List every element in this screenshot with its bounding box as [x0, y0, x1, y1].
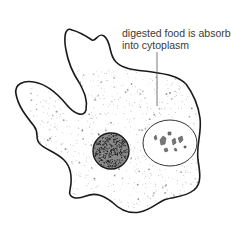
nucleus-dot: [125, 145, 126, 146]
stipple-dot: [66, 106, 67, 107]
stipple-dot: [115, 174, 116, 175]
stipple-dot: [142, 157, 143, 158]
stipple-dot: [91, 188, 92, 189]
nucleus-dot: [114, 154, 115, 155]
nucleus-dot: [116, 147, 117, 148]
stipple-dot: [96, 118, 97, 119]
stipple-dot: [108, 124, 109, 125]
stipple-dot: [90, 193, 91, 194]
stipple-dot: [134, 129, 135, 130]
stipple-dot: [113, 104, 114, 105]
nucleus-dot: [113, 139, 114, 140]
stipple-dot: [92, 129, 93, 130]
stipple-dot: [189, 125, 190, 126]
stipple-dot: [44, 122, 45, 123]
nucleus-dot: [123, 150, 124, 151]
stipple-dot: [136, 173, 137, 174]
stipple-dot: [182, 187, 183, 188]
nucleus-dot: [122, 139, 123, 140]
stipple-dot: [107, 171, 108, 172]
nucleus-dot: [116, 150, 117, 151]
nucleus-dot: [108, 156, 109, 157]
stipple-dot: [162, 102, 163, 103]
stipple-dot: [138, 170, 140, 172]
stipple-dot: [144, 127, 146, 129]
nucleus-dot: [105, 157, 106, 158]
nucleus-dot: [107, 151, 108, 152]
stipple-dot: [177, 183, 178, 184]
nucleus-dot: [102, 138, 103, 139]
stipple-dot: [129, 122, 130, 123]
nucleus-dot: [105, 138, 106, 139]
stipple-dot: [111, 123, 112, 124]
stipple-dot: [85, 94, 86, 95]
stipple-dot: [196, 169, 197, 170]
stipple-dot: [108, 112, 109, 113]
nucleus-dot: [99, 149, 100, 150]
stipple-dot: [87, 175, 88, 176]
nucleus-dot: [111, 137, 112, 138]
nucleus-dot: [108, 166, 109, 167]
nucleus-dot: [116, 143, 117, 144]
stipple-dot: [146, 120, 147, 121]
stipple-dot: [145, 159, 146, 160]
stipple-dot: [46, 102, 47, 103]
nucleus-dot: [103, 148, 104, 149]
stipple-dot: [136, 134, 137, 135]
stipple-dot: [165, 180, 166, 181]
stipple-dot: [137, 142, 138, 143]
stipple-dot: [98, 80, 99, 81]
stipple-dot: [81, 132, 82, 133]
stipple-dot: [146, 103, 147, 104]
nucleus-dot: [103, 141, 104, 142]
stipple-dot: [143, 79, 144, 80]
stipple-dot: [94, 191, 95, 192]
stipple-dot: [150, 198, 151, 199]
stipple-dot: [107, 80, 108, 81]
stipple-dot: [149, 178, 150, 179]
stipple-dot: [79, 70, 80, 71]
stipple-dot: [182, 95, 183, 96]
stipple-dot: [180, 171, 182, 173]
nucleus-dot: [107, 137, 108, 138]
nucleus-dot: [109, 143, 110, 144]
stipple-dot: [48, 108, 49, 109]
stipple-dot: [65, 148, 67, 150]
stipple-dot: [129, 103, 130, 104]
stipple-dot: [143, 94, 144, 95]
stipple-dot: [112, 96, 113, 97]
stipple-dot: [51, 137, 52, 138]
stipple-dot: [37, 95, 38, 96]
stipple-dot: [49, 103, 50, 104]
stipple-dot: [93, 122, 94, 123]
stipple-dot: [91, 95, 92, 96]
stipple-dot: [133, 152, 134, 153]
stipple-dot: [147, 196, 148, 197]
stipple-dot: [88, 142, 89, 143]
stipple-dot: [128, 203, 129, 204]
stipple-dot: [142, 173, 143, 174]
stipple-dot: [124, 107, 125, 108]
nucleus-dot: [111, 152, 112, 153]
stipple-dot: [43, 106, 44, 107]
stipple-dot: [108, 71, 109, 72]
stipple-dot: [54, 127, 55, 128]
nucleus-dot: [119, 162, 120, 163]
nucleus-dot: [96, 144, 97, 145]
stipple-dot: [134, 147, 135, 148]
stipple-dot: [191, 163, 192, 164]
stipple-dot: [87, 185, 88, 186]
nucleus-dot: [105, 141, 106, 142]
nucleus-dot: [103, 151, 104, 152]
stipple-dot: [125, 91, 127, 93]
stipple-dot: [185, 182, 186, 183]
stipple-dot: [145, 129, 146, 130]
stipple-dot: [180, 194, 181, 195]
stipple-dot: [59, 116, 60, 117]
stipple-dot: [63, 113, 64, 114]
stipple-dot: [81, 130, 83, 132]
stipple-dot: [33, 116, 34, 117]
stipple-dot: [101, 88, 102, 89]
stipple-dot: [39, 141, 41, 143]
stipple-dot: [194, 110, 195, 111]
